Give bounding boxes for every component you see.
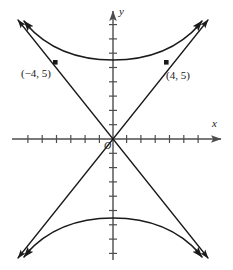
point-label-left: (−4, 5) (21, 68, 51, 79)
asymptote-positive-slope-upper-right (113, 20, 208, 139)
hyperbola-lower-right-arrow (196, 250, 202, 257)
hyperbola-upper-left-arrow (24, 21, 30, 28)
x-axis-label: x (212, 118, 217, 129)
asymptote-negative-slope-lower-right (113, 139, 208, 258)
hyperbola-figure: (−4, 5) (4, 5) O x y (0, 0, 233, 270)
asymptote-positive-slope-lower-left (18, 139, 113, 258)
graph-canvas (0, 0, 233, 270)
origin-label: O (104, 141, 111, 151)
hyperbola-upper-right-arrow (196, 21, 202, 28)
point-marker-right (164, 60, 169, 65)
point-label-right: (4, 5) (166, 70, 190, 81)
y-axis-label: y (119, 6, 124, 17)
point-marker-left (53, 60, 58, 65)
hyperbola-lower-left-arrow (24, 250, 30, 257)
asymptote-negative-slope-upper-left (18, 20, 113, 139)
